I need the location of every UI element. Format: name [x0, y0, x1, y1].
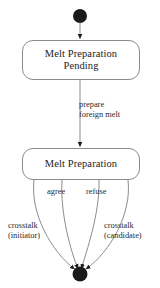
transition-label-crosstalk-candidate-line1: crosstalk	[104, 221, 142, 231]
transition-label-refuse: refuse	[86, 187, 106, 197]
state-melt-preparation-pending-label-line2: Pending	[63, 60, 98, 72]
state-melt-preparation[interactable]: Melt Preparation	[22, 148, 140, 180]
final-state-node	[73, 267, 88, 282]
transition-label-crosstalk-candidate-line2: (candidate)	[104, 231, 142, 241]
transition-label-agree: agree	[47, 187, 65, 197]
transition-label-prepare-foreign-melt: prepare foreign melt	[79, 100, 120, 121]
transition-label-prepare-line1: prepare	[79, 100, 120, 110]
state-melt-preparation-pending-label-line1: Melt Preparation	[45, 48, 117, 60]
state-machine-diagram: Melt Preparation Pending Melt Preparatio…	[0, 0, 160, 288]
state-melt-preparation-label: Melt Preparation	[45, 158, 117, 170]
transition-label-prepare-line2: foreign melt	[79, 110, 120, 120]
transition-label-crosstalk-initiator: crosstalk (initiator)	[8, 221, 40, 242]
transition-label-crosstalk-candidate: crosstalk (candidate)	[104, 221, 142, 242]
transition-label-crosstalk-initiator-line1: crosstalk	[8, 221, 40, 231]
initial-state-node	[73, 9, 87, 23]
state-melt-preparation-pending[interactable]: Melt Preparation Pending	[22, 40, 140, 80]
transition-label-crosstalk-initiator-line2: (initiator)	[8, 231, 40, 241]
